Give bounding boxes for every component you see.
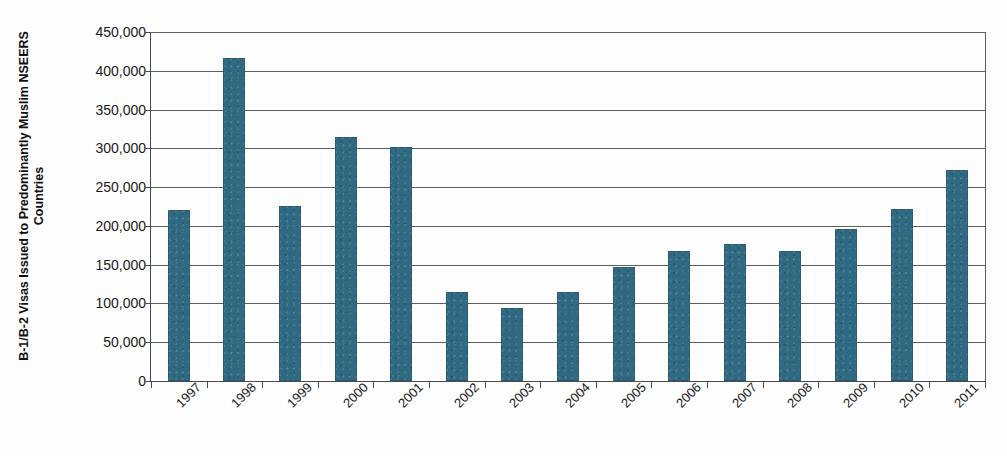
bar-chart: B-1/B-2 Visas Issued to Predominantly Mu… (0, 0, 1007, 456)
y-axis-tick-labels: 050,000100,000150,000200,000250,000300,0… (0, 32, 146, 381)
y-tick-label: 100,000 (95, 296, 146, 310)
y-tick-label: 450,000 (95, 25, 146, 39)
plot-right-border (985, 32, 986, 382)
bar (668, 251, 690, 381)
bar (501, 308, 523, 381)
x-axis-tick-labels: 1997199819992000200120022003200420052006… (151, 386, 987, 446)
bar (168, 210, 190, 381)
bar (335, 137, 357, 381)
bar (724, 244, 746, 381)
y-tick-label: 400,000 (95, 64, 146, 78)
bar (613, 267, 635, 381)
bar (446, 292, 468, 381)
bar (557, 292, 579, 381)
bar (390, 147, 412, 381)
y-tick-label: 350,000 (95, 103, 146, 117)
y-tick-label: 150,000 (95, 258, 146, 272)
bar (779, 251, 801, 381)
plot-area (151, 32, 985, 381)
y-tick-label: 250,000 (95, 180, 146, 194)
y-tick-label: 300,000 (95, 141, 146, 155)
bar (279, 206, 301, 381)
bar (891, 209, 913, 381)
bar (835, 229, 857, 381)
bar (946, 170, 968, 381)
bar (223, 58, 245, 381)
y-tick-label: 200,000 (95, 219, 146, 233)
y-tick-label: 50,000 (103, 335, 146, 349)
bar-series (151, 32, 985, 381)
